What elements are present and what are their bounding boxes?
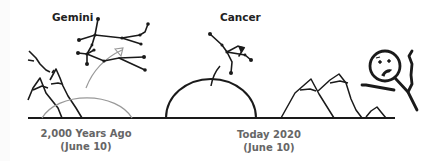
arrow-icon bbox=[211, 66, 220, 86]
precession-diagram: Gemini Cancer 2,000 Years Ago (June 10) … bbox=[0, 0, 440, 161]
past-caption-line2: (June 10) bbox=[40, 140, 131, 153]
constellation-icon bbox=[78, 19, 148, 70]
gemini-label: Gemini bbox=[52, 11, 93, 23]
mountain-icon bbox=[281, 74, 386, 118]
star-points bbox=[76, 17, 150, 72]
present-caption-line2: (June 10) bbox=[237, 141, 301, 154]
constellation-icon bbox=[210, 34, 251, 73]
face bbox=[376, 57, 391, 76]
past-caption: 2,000 Years Ago (June 10) bbox=[40, 127, 131, 153]
cancer-label: Cancer bbox=[220, 11, 261, 23]
past-caption-line1: 2,000 Years Ago bbox=[40, 127, 131, 140]
present-caption: Today 2020 (June 10) bbox=[237, 128, 301, 154]
present-caption-line1: Today 2020 bbox=[237, 128, 301, 141]
mountain-icon bbox=[28, 51, 82, 118]
sun-arc-icon bbox=[42, 98, 132, 118]
